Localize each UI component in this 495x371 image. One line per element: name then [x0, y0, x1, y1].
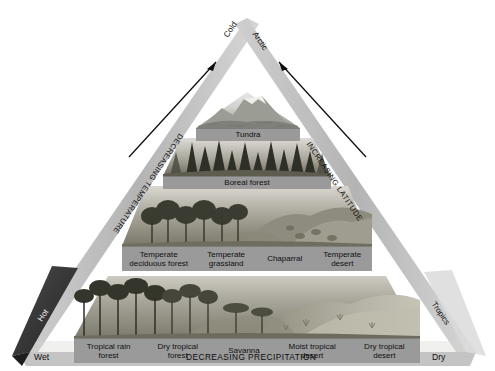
scene-tropical	[74, 276, 420, 338]
axis-label-decreasing-precipitation: DECREASING PRECIPITATION	[186, 352, 316, 362]
axis-end-wet: Wet	[34, 352, 49, 362]
biome-label-tundra: Tundra	[233, 130, 262, 140]
biome-label-chaparral: Chaparral	[257, 254, 313, 264]
pyramid-diagram: Tundra Boreal forest Temperate deciduous…	[0, 0, 495, 371]
axis-end-dry: Dry	[432, 352, 445, 362]
scene-temperate	[122, 186, 372, 246]
tier-band-boreal: Boreal forest	[163, 176, 331, 189]
biome-label-temperate-desert: Temperate desert	[312, 250, 372, 269]
base-axis: Wet DECREASING PRECIPITATION Dry	[28, 341, 471, 367]
tier-band-temperate: Temperate deciduous forest Temperate gra…	[122, 246, 372, 271]
tier-band-tundra: Tundra	[196, 128, 300, 141]
biome-label-temperate-grassland: Temperate grassland	[195, 250, 257, 269]
biome-label-boreal-forest: Boreal forest	[222, 178, 271, 188]
biome-label-temperate-deciduous-forest: Temperate deciduous forest	[122, 250, 195, 269]
